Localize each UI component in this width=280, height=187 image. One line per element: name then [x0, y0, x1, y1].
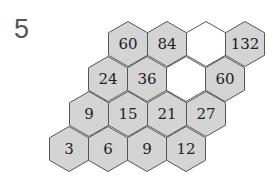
hexagon-grid: 6084132243660915212736912 [0, 0, 280, 187]
hexagon-label: 60 [215, 70, 234, 88]
hexagon-label: 132 [231, 35, 260, 53]
hexagon-label: 27 [196, 105, 215, 123]
hexagon-label: 9 [84, 105, 94, 123]
hexagon-label: 6 [103, 140, 113, 158]
hexagon-label: 60 [118, 35, 137, 53]
hexagon-label: 3 [64, 140, 74, 158]
hexagon-label: 24 [98, 70, 117, 88]
hexagon-label: 84 [157, 35, 176, 53]
hexagon-label: 15 [118, 105, 137, 123]
hexagon-label: 12 [176, 140, 195, 158]
hexagon-label: 36 [137, 70, 156, 88]
hexagon-label: 9 [142, 140, 152, 158]
hexagon-label: 21 [157, 105, 176, 123]
